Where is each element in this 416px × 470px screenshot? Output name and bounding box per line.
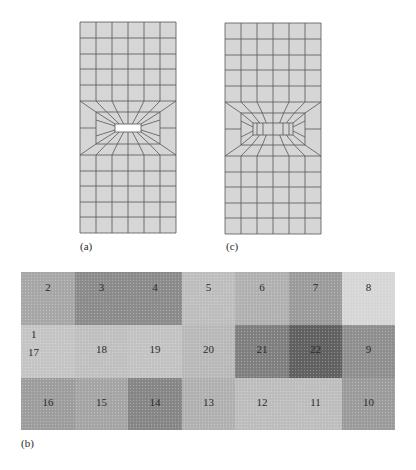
zone-label-7: 7: [313, 281, 319, 293]
zone-label-11: 11: [310, 396, 321, 408]
zone-label-13: 13: [203, 396, 215, 408]
zone-label-17: 17: [28, 346, 40, 358]
figure: (a) (c) 23456781171819202122916151413121…: [0, 0, 416, 470]
zone-label-18: 18: [96, 343, 108, 355]
zone-label-2: 2: [45, 281, 51, 293]
mesh-panel-c: [225, 23, 321, 234]
zone-label-3: 3: [99, 281, 105, 293]
zone-label-8: 8: [366, 281, 372, 293]
zone-label-1: 1: [31, 328, 37, 340]
zone-label-4: 4: [152, 281, 158, 293]
zone-label-21: 21: [257, 343, 268, 355]
zone-label-9: 9: [366, 343, 372, 355]
zone-label-14: 14: [150, 396, 162, 408]
panel-label-c: (c): [226, 240, 239, 253]
mesh-panel-a: [80, 22, 176, 233]
zone-label-10: 10: [363, 396, 375, 408]
zone-label-15: 15: [96, 396, 108, 408]
panel-label-a: (a): [80, 240, 93, 253]
mesh-hole: [115, 124, 141, 132]
zone-label-12: 12: [257, 396, 268, 408]
zone-map-panel-b: 23456781171819202122916151413121110: [21, 272, 395, 430]
zone-label-6: 6: [259, 281, 265, 293]
zone-label-5: 5: [206, 281, 212, 293]
zone-label-19: 19: [150, 343, 162, 355]
zone-label-16: 16: [43, 396, 55, 408]
zone-label-20: 20: [203, 343, 215, 355]
zone-label-22: 22: [310, 343, 321, 355]
panel-label-b: (b): [21, 437, 34, 450]
